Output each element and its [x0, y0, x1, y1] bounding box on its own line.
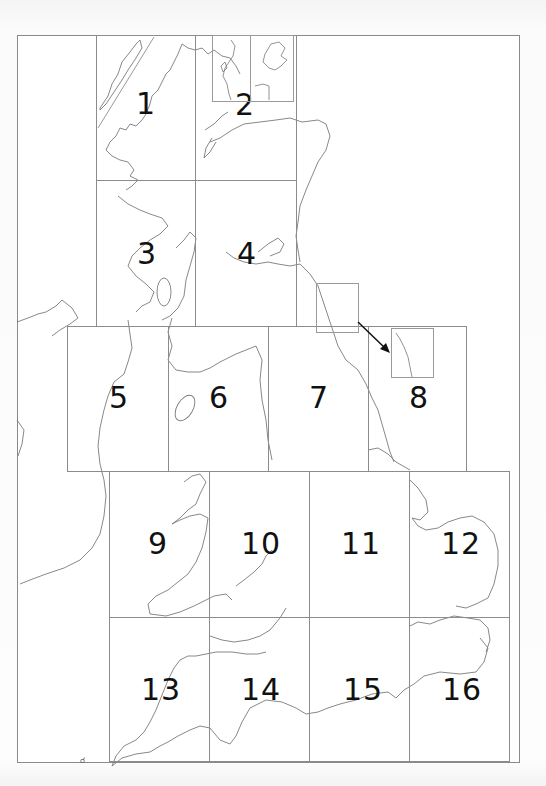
map-page: 1 2 3 4 5 6 7 8 9 10 11 12 13 14 15 16 — [0, 0, 546, 786]
scilly-isles-mark: ☌ — [80, 756, 85, 765]
inset-arrow-icon — [0, 0, 546, 786]
